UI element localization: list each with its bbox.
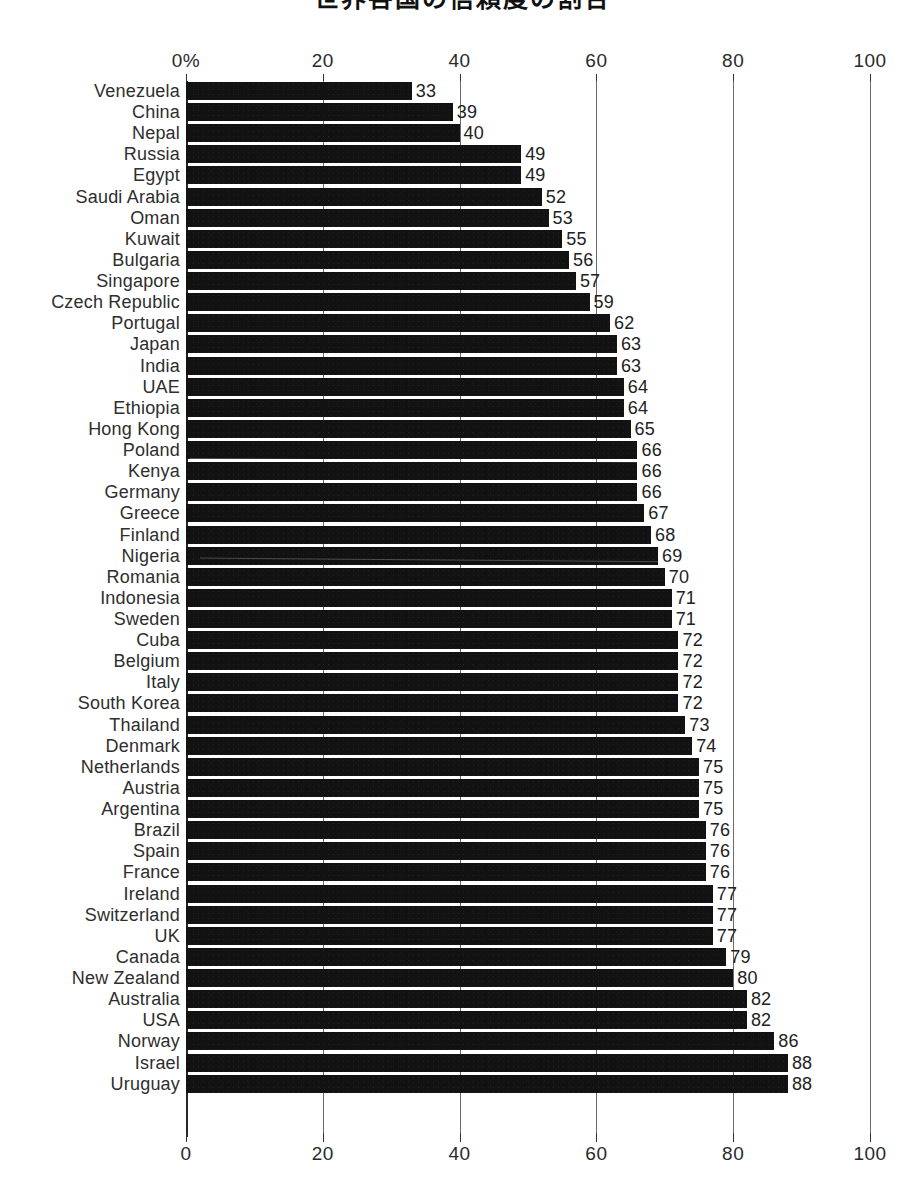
category-label: UAE: [142, 377, 180, 398]
category-label: Kuwait: [125, 229, 180, 250]
chart-row: Israel88: [0, 1053, 924, 1074]
bar-value-label: 52: [546, 187, 566, 207]
category-label: Greece: [120, 503, 180, 524]
category-label: UK: [155, 926, 180, 947]
chart-row: Thailand73: [0, 715, 924, 736]
bar-value-label: 77: [717, 905, 737, 925]
bar-value-label: 88: [792, 1074, 812, 1094]
axis-tick-label: 60: [585, 50, 607, 72]
category-label: Brazil: [134, 820, 180, 841]
chart-row: Saudi Arabia52: [0, 187, 924, 208]
chart-row: Belgium72: [0, 651, 924, 672]
chart-row: Denmark74: [0, 736, 924, 757]
bar: [186, 357, 617, 375]
bar-value-label: 67: [648, 503, 668, 523]
bar: [186, 948, 726, 966]
chart-row: Czech Republic59: [0, 292, 924, 313]
chart-row: Bulgaria56: [0, 250, 924, 271]
category-label: Venezuela: [94, 81, 180, 102]
bar-value-label: 77: [717, 884, 737, 904]
axis-tick-label: 40: [449, 50, 471, 72]
chart-row: Indonesia71: [0, 588, 924, 609]
chart-row: Sweden71: [0, 609, 924, 630]
category-label: Italy: [146, 672, 180, 693]
category-label: France: [123, 862, 180, 883]
bar: [186, 1075, 788, 1093]
bar: [186, 335, 617, 353]
bar-value-label: 74: [696, 736, 716, 756]
bar: [186, 1011, 747, 1029]
category-label: Saudi Arabia: [76, 187, 180, 208]
bar-value-label: 53: [553, 208, 573, 228]
bar-value-label: 39: [457, 102, 477, 122]
bar-value-label: 71: [676, 588, 696, 608]
chart-row: South Korea72: [0, 693, 924, 714]
category-label: Cuba: [136, 630, 180, 651]
bar: [186, 716, 685, 734]
bar-value-label: 49: [525, 165, 545, 185]
bar: [186, 230, 562, 248]
bar: [186, 737, 692, 755]
category-label: Egypt: [133, 165, 180, 186]
page-title: 世界各国の信頼度の割合: [314, 0, 611, 14]
bar: [186, 758, 699, 776]
axis-tick-mark: [323, 1133, 324, 1142]
bar: [186, 441, 637, 459]
chart-row: UAE64: [0, 377, 924, 398]
category-label: Finland: [120, 525, 180, 546]
chart-row: Egypt49: [0, 165, 924, 186]
category-label: Israel: [135, 1053, 180, 1074]
chart-row: Nepal40: [0, 123, 924, 144]
bar: [186, 885, 713, 903]
chart-row: Netherlands75: [0, 757, 924, 778]
axis-tick-label: 0%: [172, 50, 200, 72]
category-label: Singapore: [96, 271, 180, 292]
category-label: Germany: [105, 482, 180, 503]
category-label: Hong Kong: [88, 419, 180, 440]
category-label: Ireland: [124, 884, 180, 905]
category-label: Spain: [133, 841, 180, 862]
category-label: Thailand: [109, 715, 180, 736]
chart-row: Russia49: [0, 144, 924, 165]
category-label: Norway: [118, 1031, 180, 1052]
axis-tick-mark: [870, 1133, 871, 1142]
axis-tick-label: 0: [180, 1143, 191, 1165]
axis-tick-mark: [460, 1133, 461, 1142]
axis-tick-mark: [596, 1133, 597, 1142]
bar: [186, 378, 624, 396]
chart-row: Canada79: [0, 947, 924, 968]
chart-row: Norway86: [0, 1031, 924, 1052]
axis-tick-mark: [733, 1133, 734, 1142]
category-label: South Korea: [78, 693, 180, 714]
bar: [186, 800, 699, 818]
bar: [186, 462, 637, 480]
chart-row: Argentina75: [0, 799, 924, 820]
bar-value-label: 49: [525, 144, 545, 164]
bar-value-label: 65: [635, 419, 655, 439]
category-label: Czech Republic: [51, 292, 180, 313]
bar: [186, 526, 651, 544]
bar: [186, 209, 549, 227]
chart-row: Kenya66: [0, 461, 924, 482]
category-label: Poland: [123, 440, 180, 461]
chart-row: Venezuela33: [0, 81, 924, 102]
bar: [186, 927, 713, 945]
chart-row: India63: [0, 356, 924, 377]
category-label: Denmark: [106, 736, 180, 757]
bar-value-label: 64: [628, 398, 648, 418]
bar-value-label: 71: [676, 609, 696, 629]
category-label: New Zealand: [72, 968, 180, 989]
category-label: Belgium: [114, 651, 180, 672]
bar: [186, 272, 576, 290]
bar: [186, 821, 706, 839]
chart-row: Uruguay88: [0, 1074, 924, 1095]
bar-value-label: 63: [621, 334, 641, 354]
bar-value-label: 63: [621, 356, 641, 376]
chart-row: France76: [0, 862, 924, 883]
bar-value-label: 40: [464, 123, 484, 143]
bar-value-label: 72: [682, 651, 702, 671]
chart-row: Ethiopia64: [0, 398, 924, 419]
bar-value-label: 69: [662, 546, 682, 566]
bar-value-label: 70: [669, 567, 689, 587]
bar-value-label: 77: [717, 926, 737, 946]
